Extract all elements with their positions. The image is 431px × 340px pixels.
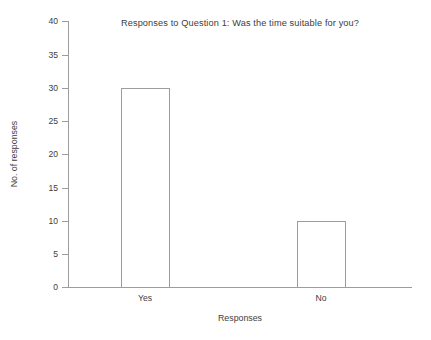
bar-chart-figure: Responses to Question 1: Was the time su…	[0, 0, 431, 340]
bar-yes[interactable]	[121, 88, 170, 288]
x-axis-line	[68, 287, 412, 288]
x-axis-title: Responses	[68, 313, 412, 323]
x-axis-label-no: No	[316, 293, 327, 303]
x-axis-tick	[169, 281, 170, 287]
y-axis-tick-label: 35	[12, 50, 58, 60]
y-axis-tick	[62, 254, 68, 255]
y-axis-tick	[62, 188, 68, 189]
chart-title: Responses to Question 1: Was the time su…	[68, 18, 412, 28]
y-axis-tick	[62, 221, 68, 222]
y-axis-tick-label: 5	[12, 249, 58, 259]
y-axis-tick-label: 10	[12, 216, 58, 226]
y-axis-title: No. of responses	[9, 94, 19, 214]
y-axis-tick	[62, 121, 68, 122]
y-axis-tick	[62, 88, 68, 89]
x-axis-tick	[345, 281, 346, 287]
y-axis-tick	[62, 21, 68, 22]
y-axis-tick	[62, 55, 68, 56]
x-axis-tick	[121, 281, 122, 287]
x-axis-label-yes: Yes	[138, 293, 152, 303]
x-axis-tick	[297, 281, 298, 287]
y-axis-tick-label: 40	[12, 16, 58, 26]
y-axis-line	[68, 21, 69, 288]
bar-no[interactable]	[297, 221, 346, 288]
y-axis-tick-label: 0	[12, 282, 58, 292]
y-axis-tick-label: 30	[12, 83, 58, 93]
y-axis-tick	[62, 154, 68, 155]
y-axis-tick	[62, 287, 68, 288]
